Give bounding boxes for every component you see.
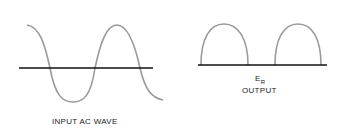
output-symbol-sub: R (261, 79, 266, 85)
output-symbol: ER (255, 74, 265, 85)
output-half-wave-2 (275, 24, 321, 65)
output-half-wave-1 (201, 24, 248, 65)
output-label: OUTPUT (242, 86, 277, 95)
input-sine-wave (27, 25, 163, 102)
diagram-canvas (0, 0, 342, 132)
input-wave-label: INPUT AC WAVE (52, 117, 118, 126)
